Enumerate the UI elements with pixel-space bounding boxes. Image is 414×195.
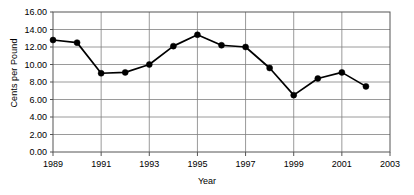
data-point [50,37,56,43]
data-point [315,76,321,82]
plot-area: 0.002.004.006.008.0010.0012.0014.0016.00… [0,0,414,195]
y-axis-tick-labels: 0.002.004.006.008.0010.0012.0014.0016.00 [24,7,47,157]
data-point [363,83,369,89]
y-tick-label: 2.00 [29,130,47,140]
data-point [291,92,297,98]
x-tick-label: 1997 [236,159,256,169]
data-point [219,42,225,48]
data-point [194,32,200,38]
x-axis-title: Year [0,176,414,186]
y-tick-label: 8.00 [29,77,47,87]
data-point [146,62,152,68]
x-axis-tick-labels: 19891991199319951997199920012003 [43,159,400,169]
x-tick-label: 2001 [332,159,352,169]
y-tick-label: 0.00 [29,147,47,157]
data-point [243,44,249,50]
x-tick-label: 1991 [91,159,111,169]
x-tick-label: 1999 [284,159,304,169]
y-tick-label: 16.00 [24,7,47,17]
y-tick-label: 6.00 [29,95,47,105]
data-series-markers [50,32,369,98]
line-chart-figure: Cents per Pound 0.002.004.006.008.0010.0… [0,0,414,195]
data-point [74,40,80,46]
data-point [339,69,345,75]
data-point [122,69,128,75]
data-point [170,43,176,49]
x-tick-label: 1995 [187,159,207,169]
y-tick-label: 12.00 [24,42,47,52]
x-tick-label: 1989 [43,159,63,169]
data-point [98,70,104,76]
x-tick-label: 2003 [380,159,400,169]
data-point [267,65,273,71]
y-tick-label: 14.00 [24,25,47,35]
y-tick-label: 4.00 [29,112,47,122]
y-tick-label: 10.00 [24,60,47,70]
data-series-line [53,35,366,95]
x-tick-label: 1993 [139,159,159,169]
